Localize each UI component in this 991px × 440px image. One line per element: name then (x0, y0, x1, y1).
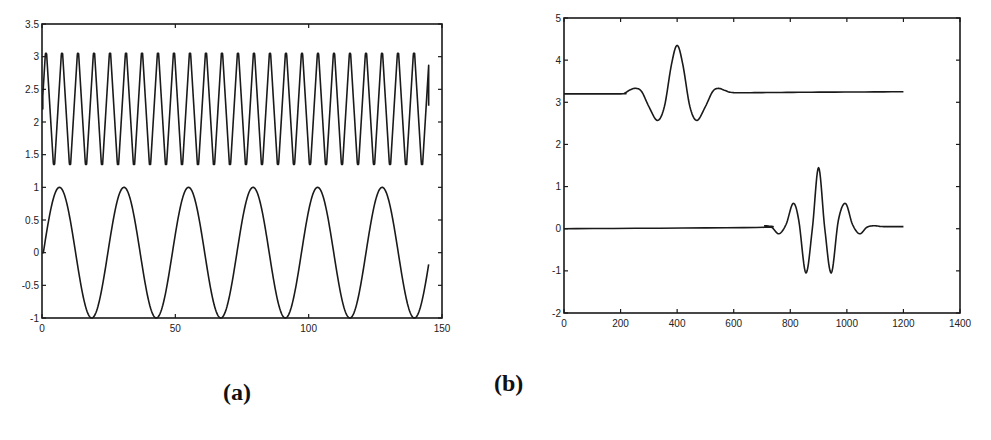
chart-a-ytick-label: -1 (30, 313, 39, 324)
chart-a-xtick-label: 50 (170, 323, 182, 334)
chart-b-xtick-label: 200 (612, 318, 629, 329)
chart-a-panel: 050100150-1-0.500.511.522.533.5 (0, 0, 480, 340)
chart-a-ytick-label: 2 (33, 117, 39, 128)
chart-a-ytick-label: 3 (33, 51, 39, 62)
chart-b-ytick-label: 2 (555, 139, 561, 150)
chart-a-ytick-label: 1.5 (25, 149, 39, 160)
chart-b-xtick-label: 400 (669, 318, 686, 329)
chart-a-xtick-label: 100 (300, 323, 317, 334)
chart-b-xtick-label: 600 (725, 318, 742, 329)
chart-a-lower-sine (42, 187, 429, 318)
chart-b-xtick-label: 1200 (892, 318, 915, 329)
chart-b-panel: 0200400600800100012001400-2-1012345 (500, 0, 991, 340)
chart-a-ytick-label: 2.5 (25, 84, 39, 95)
chart-b-xtick-label: 1400 (949, 318, 972, 329)
chart-a-xtick-label: 0 (39, 323, 45, 334)
chart-b-frame (564, 18, 960, 313)
chart-a-ytick-label: 0 (33, 247, 39, 258)
chart-b-ytick-label: 3 (555, 97, 561, 108)
chart-b-lower-wavelet (564, 168, 903, 273)
chart-b-ytick-label: 4 (555, 55, 561, 66)
chart-a: 050100150-1-0.500.511.522.533.5 (0, 0, 480, 340)
chart-b-ytick-label: -1 (552, 265, 561, 276)
chart-b-xtick-label: 800 (782, 318, 799, 329)
caption-b: (b) (494, 370, 523, 397)
chart-a-frame (42, 24, 442, 318)
caption-a: (a) (223, 379, 251, 406)
chart-b-xtick-label: 1000 (836, 318, 859, 329)
chart-a-ytick-label: 3.5 (25, 19, 39, 30)
chart-a-ytick-label: 0.5 (25, 215, 39, 226)
chart-b-ytick-label: 5 (555, 13, 561, 24)
chart-b: 0200400600800100012001400-2-1012345 (500, 0, 991, 340)
chart-b-ytick-label: 0 (555, 223, 561, 234)
chart-b-ytick-label: 1 (555, 181, 561, 192)
chart-a-xtick-label: 150 (434, 323, 451, 334)
chart-a-upper-signal (42, 53, 429, 164)
chart-a-ytick-label: 1 (33, 182, 39, 193)
chart-b-xtick-label: 0 (561, 318, 567, 329)
chart-b-ytick-label: -2 (552, 308, 561, 319)
chart-a-ytick-label: -0.5 (22, 280, 40, 291)
chart-b-upper-wavelet (564, 45, 903, 120)
